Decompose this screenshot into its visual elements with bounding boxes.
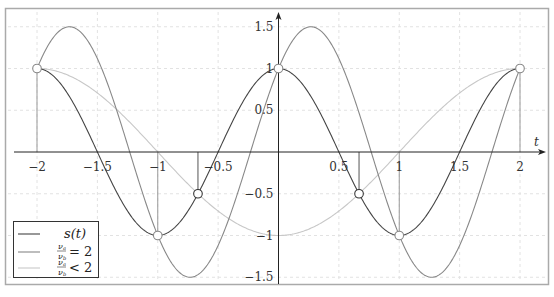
y-tick-label: 1: [266, 62, 274, 76]
y-tick-label: 0.5: [254, 103, 273, 117]
x-tick-label: −1: [149, 160, 167, 174]
x-tick-label: 1: [395, 160, 403, 174]
x-tick-label: −0.5: [204, 160, 233, 174]
x-axis-label: t: [534, 135, 539, 149]
legend: s(t) νa νb = 2 νa νb < 2: [14, 222, 99, 278]
legend-rel-eq: = 2: [69, 244, 92, 259]
legend-label-s: s(t): [64, 226, 86, 241]
y-tick-label: −0.5: [244, 187, 273, 201]
x-tick-label: −1.5: [83, 160, 112, 174]
y-tick-label: −1.5: [244, 270, 273, 284]
x-tick-label: 1.5: [450, 160, 469, 174]
chart: −2−1.5−1−0.50.511.521.510.5−0.5−1−1.5 t …: [0, 0, 554, 297]
y-tick-label: 1.5: [254, 20, 273, 34]
x-tick-label: 2: [516, 160, 524, 174]
legend-rel-lt: < 2: [69, 260, 92, 275]
y-tick-label: −1: [256, 229, 274, 243]
x-tick-label: 0.5: [329, 160, 348, 174]
x-tick-label: −2: [28, 160, 46, 174]
